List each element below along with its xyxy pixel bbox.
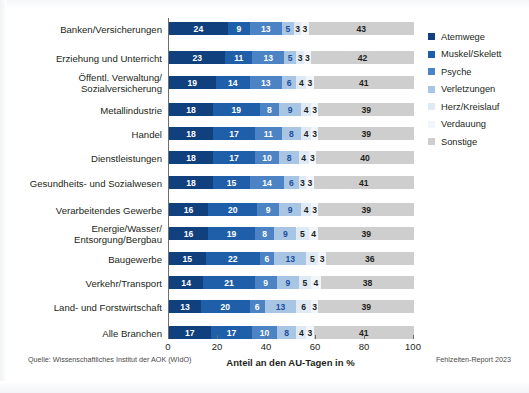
report-note: Fehlzeiten-Report 2023 xyxy=(436,355,511,364)
bar-segment: 9 xyxy=(274,227,296,240)
category-label: Metallindustrie xyxy=(100,104,162,115)
bar-segment: 3 xyxy=(311,103,318,116)
bar-segment: 11 xyxy=(225,51,252,64)
bar-segment: 3 xyxy=(309,151,316,164)
stacked-bar: 18171184339 xyxy=(169,127,414,140)
bar-segment: 18 xyxy=(169,103,213,116)
bar-segment: 3 xyxy=(306,76,313,89)
bar-segment: 4 xyxy=(309,227,319,240)
bar-segment: 3 xyxy=(318,252,325,265)
bar-segment: 9 xyxy=(255,276,277,289)
bar-segment: 3 xyxy=(299,176,306,189)
bar-segment: 14 xyxy=(250,176,284,189)
bar-segment: 3 xyxy=(311,203,318,216)
x-tick-mark xyxy=(266,335,267,339)
bar-segment: 8 xyxy=(255,227,275,240)
bar-segment: 17 xyxy=(169,326,211,339)
bar-segment: 40 xyxy=(316,151,414,164)
stacked-bar: 1620994339 xyxy=(169,203,414,216)
chart-row: Banken/Versicherungen2491353343 xyxy=(168,22,413,35)
bar-segment: 16 xyxy=(169,203,208,216)
x-tick-mark xyxy=(315,335,316,339)
x-axis-title: Anteil an den AU-Tagen in % xyxy=(168,357,413,368)
chart-row: Metallindustrie1819894339 xyxy=(168,103,413,116)
bar-segment: 13 xyxy=(265,300,297,313)
legend-swatch-icon xyxy=(428,68,435,75)
stacked-bar: 18151463341 xyxy=(169,176,414,189)
bar-segment: 8 xyxy=(279,151,299,164)
bar-segment: 39 xyxy=(318,103,414,116)
bar-segment: 18 xyxy=(169,176,213,189)
bar-segment: 10 xyxy=(252,326,277,339)
source-note: Quelle: Wissenschaftliches Institut der … xyxy=(28,355,191,364)
bar-segment: 15 xyxy=(213,176,250,189)
bar-segment: 9 xyxy=(277,276,299,289)
legend-label: Herz/Kreislauf xyxy=(441,102,499,112)
legend-swatch-icon xyxy=(428,33,435,40)
bar-segment: 4 xyxy=(301,103,311,116)
chart-row: Handel18171184339 xyxy=(168,127,413,140)
bar-segment: 42 xyxy=(311,51,414,64)
legend-swatch-icon xyxy=(428,51,435,58)
bar-segment: 21 xyxy=(203,276,254,289)
bar-segment: 13 xyxy=(169,300,201,313)
bar-segment: 6 xyxy=(296,300,311,313)
legend-swatch-icon xyxy=(428,121,435,128)
bar-segment: 39 xyxy=(318,127,414,140)
legend-label: Atemwege xyxy=(441,32,485,42)
bar-segment: 8 xyxy=(260,103,280,116)
bar-segment: 39 xyxy=(318,227,414,240)
bar-segment: 6 xyxy=(250,300,265,313)
chart-row: Dienstleistungen18171084340 xyxy=(168,151,413,164)
bar-segment: 13 xyxy=(274,252,306,265)
legend-item: Psyche xyxy=(428,63,528,81)
x-tick-label: 80 xyxy=(359,341,370,352)
bar-segment: 5 xyxy=(282,22,294,35)
x-tick-label: 20 xyxy=(212,341,223,352)
bar-segment: 16 xyxy=(169,227,208,240)
bar-segment: 41 xyxy=(314,176,414,189)
legend-label: Muskel/Skelett xyxy=(441,49,501,59)
bar-segment: 3 xyxy=(306,176,313,189)
x-tick-label: 0 xyxy=(165,341,170,352)
category-label: Handel xyxy=(132,128,162,139)
x-tick-mark xyxy=(217,335,218,339)
category-label: Banken/Versicherungen xyxy=(60,23,162,34)
chart-row: Alle Branchen17171084341 xyxy=(168,326,413,339)
bar-segment: 5 xyxy=(296,227,308,240)
chart-row: Baugewerbe15226135336 xyxy=(168,252,413,265)
bar-segment: 4 xyxy=(296,76,306,89)
category-label: Erziehung und Unterricht xyxy=(56,52,162,63)
bar-segment: 17 xyxy=(213,127,255,140)
x-tick-label: 100 xyxy=(405,341,421,352)
bar-segment: 5 xyxy=(299,276,311,289)
legend-item: Sonstige xyxy=(428,133,528,151)
category-label: Verarbeitendes Gewerbe xyxy=(56,204,162,215)
bar-segment: 5 xyxy=(306,252,318,265)
scan-edge-left xyxy=(0,0,7,393)
chart-row: Erziehung und Unterricht23111353342 xyxy=(168,51,413,64)
bar-segment: 3 xyxy=(304,51,311,64)
bar-segment: 20 xyxy=(201,300,250,313)
bar-segment: 41 xyxy=(314,76,414,89)
chart-row: Verarbeitendes Gewerbe1620994339 xyxy=(168,203,413,216)
bar-segment: 38 xyxy=(321,276,414,289)
bar-segment: 3 xyxy=(311,300,318,313)
bar-segment: 6 xyxy=(260,252,275,265)
bar-segment: 14 xyxy=(216,76,250,89)
x-tick-mark xyxy=(413,335,414,339)
bar-segment: 39 xyxy=(318,203,414,216)
bar-segment: 13 xyxy=(250,76,282,89)
bar-segment: 23 xyxy=(169,51,225,64)
bar-segment: 3 xyxy=(306,326,313,339)
bar-segment: 6 xyxy=(282,76,297,89)
plot-area: Banken/Versicherungen2491353343Erziehung… xyxy=(168,18,413,335)
bar-segment: 4 xyxy=(296,326,306,339)
chart-row: Land- und Forstwirtschaft13206136339 xyxy=(168,300,413,313)
bar-segment: 8 xyxy=(282,127,302,140)
legend-label: Verletzungen xyxy=(441,84,495,94)
category-label: Land- und Forstwirtschaft xyxy=(54,301,162,312)
bar-segment: 8 xyxy=(277,326,297,339)
category-label: Baugewerbe xyxy=(108,253,162,264)
x-tick-label: 60 xyxy=(310,341,321,352)
